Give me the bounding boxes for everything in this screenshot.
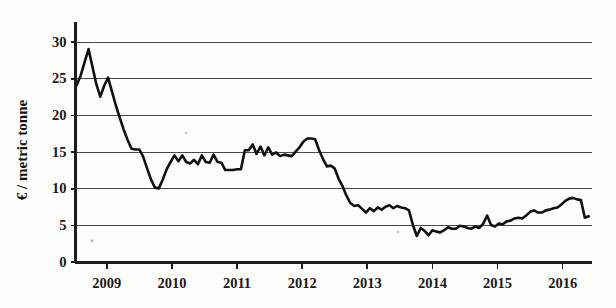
y-tick-label: 5 [59, 217, 66, 233]
y-tick-label: 25 [52, 70, 67, 86]
y-axis-title: € / metric tonne [14, 99, 30, 200]
y-tick-label: 20 [52, 107, 67, 123]
x-tick-label: 2010 [157, 275, 186, 291]
price-line-chart: 051015202530 200920102011201220132014201… [0, 0, 616, 308]
x-tick-label: 2013 [353, 275, 382, 291]
y-tick-group: 051015202530 [52, 34, 76, 270]
y-tick-label: 30 [52, 34, 67, 50]
x-tick-group: 20092010201120122013201420152016 [92, 263, 577, 291]
scan-speck [185, 132, 187, 134]
x-tick-label: 2016 [548, 275, 577, 291]
x-tick-label: 2012 [288, 275, 317, 291]
y-tick-label: 10 [52, 180, 67, 196]
gridlines-group [76, 42, 593, 225]
x-tick-label: 2009 [92, 275, 121, 291]
scan-speck [397, 231, 399, 233]
x-tick-label: 2014 [418, 275, 447, 291]
y-tick-label: 15 [52, 144, 67, 160]
x-tick-label: 2011 [223, 275, 251, 291]
scan-speck [91, 240, 94, 243]
price-series-line [77, 49, 589, 236]
y-tick-label: 0 [59, 254, 66, 270]
x-tick-label: 2015 [483, 275, 512, 291]
chart-page: 051015202530 200920102011201220132014201… [0, 0, 616, 308]
